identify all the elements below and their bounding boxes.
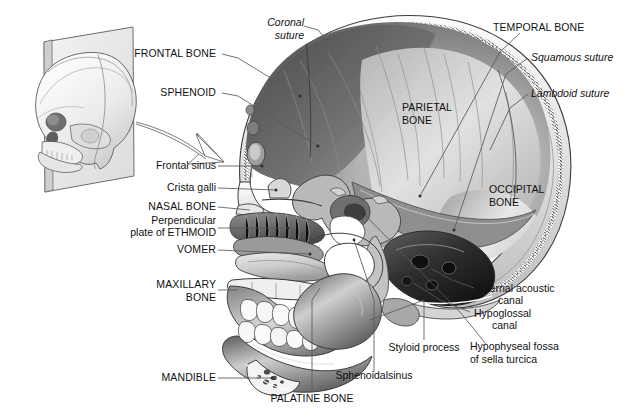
label-sphenoid: SPHENOID xyxy=(96,86,216,98)
label-coronal-suture-line1: Coronal xyxy=(236,16,304,28)
label-crista-galli: Crista galli xyxy=(116,181,216,193)
label-squamous-suture: Squamous suture xyxy=(531,51,638,63)
label-hypoglossal-canal-line2: canal xyxy=(492,319,592,331)
label-palatine-bone: PALATINE BONE xyxy=(262,392,362,404)
label-vomer: VOMER xyxy=(116,243,216,255)
label-coronal-suture-line2: suture xyxy=(236,29,304,41)
label-internal-acoustic-canal-line2: canal xyxy=(498,294,598,306)
label-frontal-bone: FRONTAL BONE xyxy=(76,47,216,59)
label-maxillary-bone-line2: BONE xyxy=(96,291,216,303)
label-parietal-bone-line2: BONE xyxy=(402,114,472,126)
label-occipital-bone-line1: OCCIPITAL xyxy=(489,183,569,195)
label-sphenoidal-sinus: Sphenoidalsinus xyxy=(324,369,424,381)
label-temporal-bone: TEMPORAL BONE xyxy=(493,21,633,33)
figure-canvas: FRONTAL BONE SPHENOID Frontal sinus Cris… xyxy=(0,0,638,420)
label-occipital-bone-line2: BONE xyxy=(489,196,569,208)
label-perpendicular-plate-line1: Perpendicular xyxy=(96,214,216,226)
label-lambdoid-suture: Lambdoid suture xyxy=(531,87,638,99)
label-internal-acoustic-canal-line1: Internal acoustic xyxy=(478,282,598,294)
label-hypoglossal-canal-line1: Hypoglossal xyxy=(474,307,584,319)
label-maxillary-bone-line1: MAXILLARY xyxy=(96,278,216,290)
label-frontal-sinus: Frontal sinus xyxy=(116,159,216,171)
label-mandible: MANDIBLE xyxy=(96,371,216,383)
label-hypophyseal-fossa-line1: Hypophyseal fossa xyxy=(470,340,600,352)
label-nasal-bone: NASAL BONE xyxy=(96,200,216,212)
label-perpendicular-plate-line2: plate of ETHMOID xyxy=(76,226,216,238)
label-styloid-process: Styloid process xyxy=(376,341,472,353)
label-hypophyseal-fossa-line2: of sella turcica xyxy=(470,353,600,365)
label-parietal-bone-line1: PARIETAL xyxy=(402,101,472,113)
